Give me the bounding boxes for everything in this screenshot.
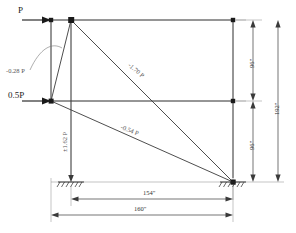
truss-diagram: P 0.5P -0.28 P -1.70 P -0.54 P ±1.62 P 9… xyxy=(0,0,296,233)
mid-load-label: 0.5P xyxy=(8,91,24,100)
node-top-right xyxy=(231,18,235,22)
dim-label-total-192: 192" xyxy=(274,103,281,115)
dim-total-192 xyxy=(275,20,280,182)
construction-lines xyxy=(51,20,246,200)
top-load-label: P xyxy=(18,6,23,15)
dim-label-upper-96: 96" xyxy=(249,59,256,68)
vertical-member-arrowhead xyxy=(68,175,74,182)
force-label-upper-left-diagonal: -0.28 P xyxy=(6,68,25,75)
node-mid-right xyxy=(231,99,235,103)
force-label-vertical-member: ±1.62 P xyxy=(62,132,69,152)
top-load-arrow xyxy=(22,16,51,23)
leader-line-028 xyxy=(30,46,62,70)
node-apex xyxy=(68,17,74,23)
dim-label-span-160: 160" xyxy=(134,206,146,213)
mid-load-arrow xyxy=(22,97,51,104)
dim-label-span-154: 154" xyxy=(143,190,155,197)
truss-members xyxy=(51,20,233,182)
left-support-symbol xyxy=(57,182,84,187)
member-long-diagonal-lower xyxy=(51,101,233,182)
diagram-canvas xyxy=(0,0,296,233)
member-upper-left-diagonal xyxy=(51,20,71,101)
dim-label-lower-96: 96" xyxy=(249,141,256,150)
